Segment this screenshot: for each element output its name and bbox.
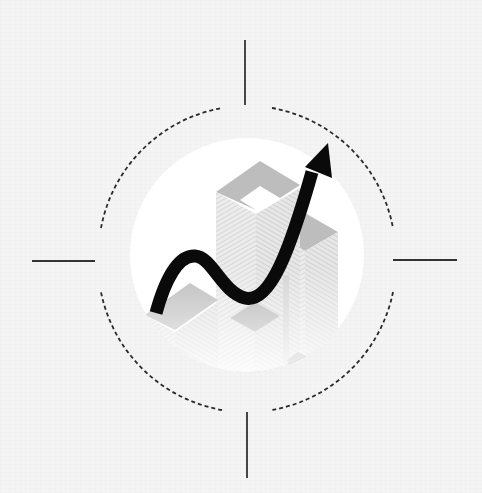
target-growth-illustration <box>0 0 482 493</box>
illustration-canvas <box>0 0 482 493</box>
